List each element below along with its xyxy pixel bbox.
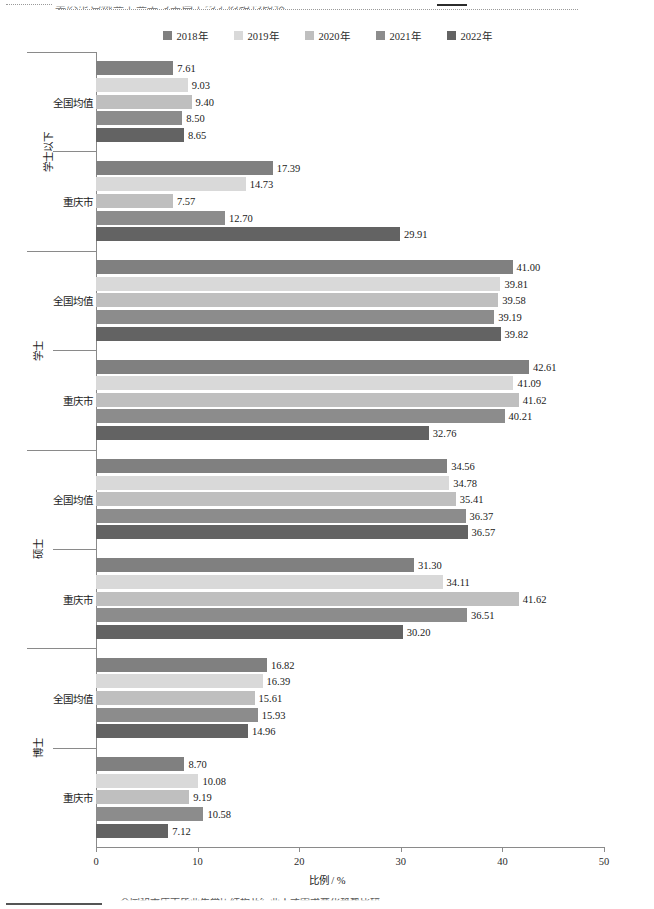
bar-chart: 2018年2019年2020年2021年2022年 学士以下全国均值重庆市学士全… xyxy=(0,16,654,876)
bar-value-label: 41.62 xyxy=(519,593,547,604)
bar-2020年-硕士-重庆市[interactable] xyxy=(96,592,519,606)
bar-row: 34.11 xyxy=(96,575,604,589)
bar-2019年-硕士-重庆市[interactable] xyxy=(96,575,443,589)
legend-item-2020年[interactable]: 2020年 xyxy=(305,28,350,43)
legend-item-2022年[interactable]: 2022年 xyxy=(447,28,492,43)
subgroup-divider xyxy=(53,350,97,351)
subgroup-label-重庆市: 重庆市 xyxy=(63,392,93,407)
bar-value-label: 16.82 xyxy=(267,659,295,670)
bar-row: 41.62 xyxy=(96,393,604,407)
bar-row: 36.37 xyxy=(96,509,604,523)
bar-2020年-学士以下-全国均值[interactable] xyxy=(96,95,192,109)
bar-2018年-学士-全国均值[interactable] xyxy=(96,260,513,274)
bar-value-label: 39.19 xyxy=(494,312,522,323)
bar-row: 7.12 xyxy=(96,824,604,838)
bar-2020年-硕士-全国均值[interactable] xyxy=(96,492,456,506)
bar-value-label: 39.81 xyxy=(500,278,528,289)
bar-value-label: 14.96 xyxy=(248,726,276,737)
bar-2019年-学士以下-重庆市[interactable] xyxy=(96,177,246,191)
bar-row: 14.96 xyxy=(96,724,604,738)
bar-value-label: 14.73 xyxy=(246,179,274,190)
bar-row: 10.08 xyxy=(96,774,604,788)
bar-2022年-学士以下-重庆市[interactable] xyxy=(96,227,400,241)
bar-2020年-博士-全国均值[interactable] xyxy=(96,691,255,705)
bar-2021年-学士-重庆市[interactable] xyxy=(96,409,505,423)
bar-value-label: 15.93 xyxy=(258,709,286,720)
bar-2019年-学士-重庆市[interactable] xyxy=(96,376,513,390)
legend-item-2021年[interactable]: 2021年 xyxy=(376,28,421,43)
x-tick-label: 0 xyxy=(93,856,98,867)
subgroup-label-全国均值: 全国均值 xyxy=(53,690,93,705)
bar-row: 9.19 xyxy=(96,790,604,804)
bar-row: 7.61 xyxy=(96,61,604,75)
bar-row: 34.56 xyxy=(96,459,604,473)
x-tick-label: 40 xyxy=(497,856,508,867)
x-tick-label: 50 xyxy=(599,856,610,867)
bar-value-label: 9.40 xyxy=(192,96,214,107)
bar-2022年-学士以下-全国均值[interactable] xyxy=(96,128,184,142)
bar-2022年-博士-重庆市[interactable] xyxy=(96,824,168,838)
bar-value-label: 7.12 xyxy=(168,825,190,836)
bar-value-label: 8.50 xyxy=(182,113,204,124)
bar-value-label: 12.70 xyxy=(225,212,253,223)
bar-2021年-博士-全国均值[interactable] xyxy=(96,708,258,722)
legend-label: 2019年 xyxy=(248,28,279,43)
bar-row: 39.82 xyxy=(96,327,604,341)
bar-row: 42.61 xyxy=(96,360,604,374)
bar-row: 9.03 xyxy=(96,78,604,92)
legend-item-2018年[interactable]: 2018年 xyxy=(163,28,208,43)
bar-2018年-硕士-全国均值[interactable] xyxy=(96,459,447,473)
bar-value-label: 8.65 xyxy=(184,129,206,140)
bar-2020年-学士-重庆市[interactable] xyxy=(96,393,519,407)
bar-2020年-博士-重庆市[interactable] xyxy=(96,790,189,804)
bar-2020年-学士-全国均值[interactable] xyxy=(96,293,498,307)
bar-2021年-学士以下-重庆市[interactable] xyxy=(96,211,225,225)
bar-2022年-学士-重庆市[interactable] xyxy=(96,426,429,440)
bar-value-label: 42.61 xyxy=(529,361,557,372)
bar-2018年-博士-重庆市[interactable] xyxy=(96,757,184,771)
bar-row: 41.09 xyxy=(96,376,604,390)
legend-label: 2022年 xyxy=(461,28,492,43)
bar-2018年-学士以下-全国均值[interactable] xyxy=(96,61,173,75)
bar-2019年-学士以下-全国均值[interactable] xyxy=(96,78,188,92)
bar-2018年-学士-重庆市[interactable] xyxy=(96,360,529,374)
header-dotted-rule-left xyxy=(6,4,52,5)
bar-2021年-博士-重庆市[interactable] xyxy=(96,807,203,821)
bar-2018年-博士-全国均值[interactable] xyxy=(96,658,267,672)
bar-row: 16.82 xyxy=(96,658,604,672)
bar-2018年-学士以下-重庆市[interactable] xyxy=(96,161,273,175)
bar-2021年-学士-全国均值[interactable] xyxy=(96,310,494,324)
bar-2022年-博士-全国均值[interactable] xyxy=(96,724,248,738)
bar-2022年-学士-全国均值[interactable] xyxy=(96,327,501,341)
bar-2021年-硕士-全国均值[interactable] xyxy=(96,509,466,523)
bar-value-label: 39.58 xyxy=(498,295,526,306)
legend-swatch-icon xyxy=(163,31,172,40)
bar-2019年-硕士-全国均值[interactable] xyxy=(96,476,449,490)
bar-value-label: 41.09 xyxy=(513,378,541,389)
bar-row: 15.61 xyxy=(96,691,604,705)
bar-row: 8.50 xyxy=(96,111,604,125)
x-tick-mark xyxy=(198,847,199,852)
bar-value-label: 40.21 xyxy=(505,411,533,422)
bar-2019年-博士-重庆市[interactable] xyxy=(96,774,198,788)
bar-row: 16.39 xyxy=(96,674,604,688)
bar-2018年-硕士-重庆市[interactable] xyxy=(96,558,414,572)
bar-row: 10.58 xyxy=(96,807,604,821)
bar-value-label: 30.20 xyxy=(403,626,431,637)
bar-2022年-硕士-重庆市[interactable] xyxy=(96,625,403,639)
bar-2019年-学士-全国均值[interactable] xyxy=(96,277,500,291)
header-solid-rule xyxy=(437,4,467,6)
bar-2020年-学士以下-重庆市[interactable] xyxy=(96,194,173,208)
bar-2021年-硕士-重庆市[interactable] xyxy=(96,608,467,622)
subgroup-label-重庆市: 重庆市 xyxy=(63,591,93,606)
bar-2022年-硕士-全国均值[interactable] xyxy=(96,525,468,539)
legend-item-2019年[interactable]: 2019年 xyxy=(234,28,279,43)
bar-2019年-博士-全国均值[interactable] xyxy=(96,674,263,688)
bar-2021年-学士以下-全国均值[interactable] xyxy=(96,111,182,125)
bar-value-label: 10.08 xyxy=(198,775,226,786)
subgroup-divider xyxy=(53,151,97,152)
category-label: 硕士 xyxy=(30,539,45,559)
category-label: 学士 xyxy=(30,341,45,361)
plot-area: 7.619.039.408.508.6517.3914.737.5712.702… xyxy=(96,52,604,847)
x-tick-label: 20 xyxy=(294,856,305,867)
